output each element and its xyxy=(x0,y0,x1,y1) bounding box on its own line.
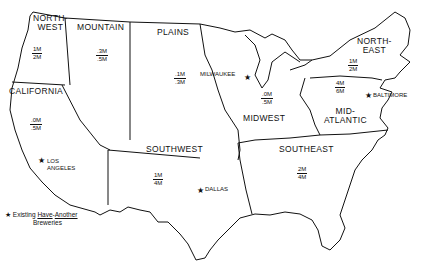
current-value: .0M xyxy=(30,117,42,125)
city-label-los-angeles: LOS ANGELES xyxy=(47,158,75,172)
potential-value: 6M xyxy=(335,88,345,95)
region-value-california: .0M .5M xyxy=(30,117,42,132)
region-value-plains: .1M .3M xyxy=(174,71,186,86)
region-value-mountain: .3M .5M xyxy=(96,48,108,63)
potential-value: 4M xyxy=(153,180,163,187)
region-label-northeast: NORTH- EAST xyxy=(357,37,392,55)
potential-value: .5M xyxy=(261,99,273,106)
region-label-line: MIDWEST xyxy=(243,114,285,123)
current-value: 4M xyxy=(335,80,345,88)
region-label-line: ATLANTIC xyxy=(324,116,367,125)
border-northeast-midatlantic xyxy=(310,76,382,80)
star-icon: ★ xyxy=(244,74,251,82)
legend-brand-have: Have xyxy=(37,211,52,218)
region-value-southwest: 1M 4M xyxy=(153,172,163,187)
star-icon: ★ xyxy=(38,157,45,165)
region-label-line: MOUNTAIN xyxy=(77,23,124,32)
current-value: 1M xyxy=(153,172,163,180)
border-midwest-southeast xyxy=(238,135,320,143)
region-value-northeast: 1M 2M xyxy=(348,58,358,73)
city-label-milwaukee: MILWAUKEE xyxy=(200,71,235,78)
current-value: .3M xyxy=(96,48,108,56)
current-value: 1M xyxy=(32,46,42,54)
potential-value: 4M xyxy=(297,174,307,181)
potential-value: .3M xyxy=(174,79,186,86)
region-label-southeast: SOUTHEAST xyxy=(279,145,334,154)
legend-brand-another: Another xyxy=(55,211,78,218)
region-label-mountain: MOUNTAIN xyxy=(77,23,124,32)
legend-line-1: ★ Existing Have-Another xyxy=(5,211,78,219)
region-label-line: CALIFORNIA xyxy=(9,87,63,96)
region-label-california: CALIFORNIA xyxy=(9,87,63,96)
potential-value: .5M xyxy=(30,125,42,132)
border-california-mountain xyxy=(62,85,110,150)
potential-value: 2M xyxy=(348,66,358,73)
legend-text: Existing xyxy=(13,211,38,218)
current-value: 2M xyxy=(297,166,307,174)
border-midatlantic-southeast xyxy=(320,130,388,135)
region-label-line: SOUTHEAST xyxy=(279,145,334,154)
border-nw-california xyxy=(12,82,65,85)
region-label-southwest: SOUTHWEST xyxy=(146,145,203,154)
great-lakes xyxy=(245,35,312,88)
star-icon: ★ xyxy=(5,211,11,218)
border-midwest-midatlantic xyxy=(300,78,320,135)
region-label-line: WEST xyxy=(33,23,68,32)
region-value-midwest: .0M .5M xyxy=(261,91,273,106)
region-label-midatlantic: MID- ATLANTIC xyxy=(324,107,367,125)
star-icon: ★ xyxy=(365,92,372,100)
city-label-baltimore: BALTIMORE xyxy=(373,92,407,99)
potential-value: 2M xyxy=(32,54,42,61)
city-label-line: ANGELES xyxy=(47,165,75,172)
current-value: .0M xyxy=(261,91,273,99)
region-label-northwest: NORTH- WEST xyxy=(33,14,68,32)
city-label-dallas: DALLAS xyxy=(205,186,228,193)
current-value: .1M xyxy=(174,71,186,79)
current-value: 1M xyxy=(348,58,358,66)
region-label-midwest: MIDWEST xyxy=(243,114,285,123)
potential-value: .5M xyxy=(96,56,108,63)
legend-line-2: Breweries xyxy=(5,219,78,227)
city-label-line: LOS xyxy=(47,158,75,165)
region-label-line: SOUTHWEST xyxy=(146,145,203,154)
border-southwest-southeast xyxy=(238,143,252,214)
region-value-southeast: 2M 4M xyxy=(297,166,307,181)
region-label-plains: PLAINS xyxy=(157,28,189,37)
map-legend: ★ Existing Have-Another Breweries xyxy=(5,211,78,227)
region-label-line: PLAINS xyxy=(157,28,189,37)
star-icon: ★ xyxy=(197,187,204,195)
region-value-midatlantic: 4M 6M xyxy=(335,80,345,95)
border-plains-midwest xyxy=(200,24,240,160)
region-label-line: EAST xyxy=(357,46,392,55)
region-value-northwest: 1M 2M xyxy=(32,46,42,61)
